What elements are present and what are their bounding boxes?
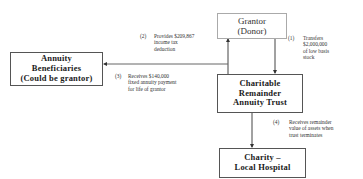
node-annuity-beneficiaries: Annuity Beneficiaries (Could be grantor) [10,52,103,86]
annotation-step-1: (1) Transfers $2,000,000 of low basis st… [288,35,329,61]
step-1-line-2: $2,000,000 [303,41,329,47]
grantor-line-2: (Donor) [238,26,267,36]
node-grantor: Grantor (Donor) [217,13,287,39]
step-3-line-3: for life of grantor [128,86,177,92]
beneficiaries-line-3: (Could be grantor) [20,74,92,84]
step-1-line-4: stock [303,54,329,60]
step-3-line-2: fixed annuity payment [128,79,177,85]
step-2-line-3: deduction [154,46,194,52]
grantor-line-1: Grantor [238,16,266,26]
step-1-number: (1) [288,35,294,41]
node-charity: Charity – Local Hospital [219,148,306,178]
step-2-number: (2) [140,33,146,39]
step-4-number: (4) [273,119,279,125]
annotation-step-2: (2) Provides $209,867 income tax deducti… [140,33,194,52]
step-3-number: (3) [115,73,121,79]
connector-lines [0,0,363,179]
annotation-step-4: (4) Receives remainder value of assets w… [273,119,333,138]
step-4-line-2: value of assets when [289,125,333,131]
charity-line-2: Local Hospital [235,163,291,173]
step-4-line-3: trust terminates [289,132,333,138]
crat-line-3: Annuity Trust [233,98,287,108]
annotation-step-3: (3) Receives $140,000 fixed annuity paym… [115,73,177,92]
node-charitable-remainder-annuity-trust: Charitable Remainder Annuity Trust [217,74,303,113]
